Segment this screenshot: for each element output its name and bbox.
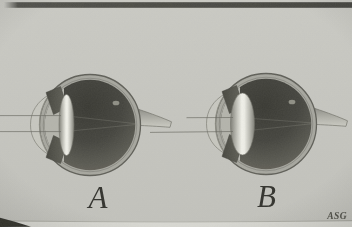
film-grain-overlay xyxy=(0,0,352,227)
scanned-figure-photo: A B ASG xyxy=(0,0,352,227)
eye-accommodation-diagram: A B ASG xyxy=(0,0,352,227)
